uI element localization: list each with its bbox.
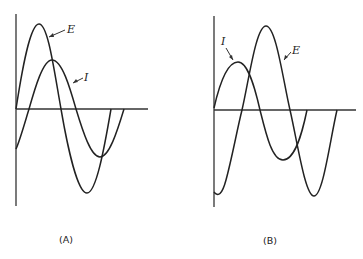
panel-a-i-arrowhead-icon xyxy=(73,79,78,83)
panel-a: E I xyxy=(16,14,148,206)
panel-a-caption: (A) xyxy=(59,234,73,245)
panel-b: I E xyxy=(214,16,356,207)
panel-a-e-arrowhead-icon xyxy=(49,33,54,37)
phase-diagrams: E I I E xyxy=(0,0,363,259)
panel-b-label-e: E xyxy=(291,44,300,57)
panel-b-label-i: I xyxy=(220,35,226,48)
panel-b-e-wave xyxy=(214,26,337,196)
panel-b-i-wave xyxy=(214,62,307,160)
panel-a-label-i: I xyxy=(83,71,89,84)
panel-b-i-arrowhead-icon xyxy=(229,55,233,60)
panel-b-caption: (B) xyxy=(263,235,277,246)
panel-a-label-e: E xyxy=(66,23,75,36)
